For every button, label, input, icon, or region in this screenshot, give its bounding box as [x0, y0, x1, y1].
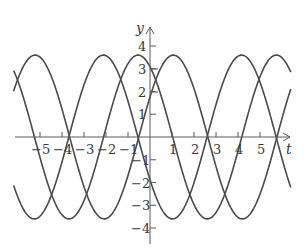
y-tick-label: 3: [138, 62, 146, 77]
y-tick-label: −2: [131, 176, 150, 191]
y-tick-label: 4: [138, 39, 146, 54]
x-tick-label: −3: [75, 142, 94, 157]
y-tick-label: −1: [131, 153, 150, 168]
x-tick-label: 5: [257, 142, 265, 157]
x-tick-label: −2: [97, 142, 116, 157]
chart: −5−4−3−2−112345 −4−3−2−11234 t y: [0, 0, 307, 248]
y-tick-label: 1: [138, 107, 146, 122]
x-tick-label: 4: [235, 142, 243, 157]
x-axis-label: t: [286, 141, 292, 157]
y-tick-label: −3: [131, 198, 150, 213]
x-tick-label: −4: [53, 142, 72, 157]
y-tick-label: 2: [138, 85, 146, 100]
x-tick-label: 3: [213, 142, 221, 157]
y-tick-label: −4: [131, 221, 150, 236]
y-axis-label: y: [135, 20, 145, 36]
x-tick-label: 2: [191, 142, 199, 157]
x-tick-label: 1: [169, 142, 177, 157]
axes: −5−4−3−2−112345 −4−3−2−11234 t y: [15, 20, 292, 244]
x-tick-label: −5: [31, 142, 50, 157]
